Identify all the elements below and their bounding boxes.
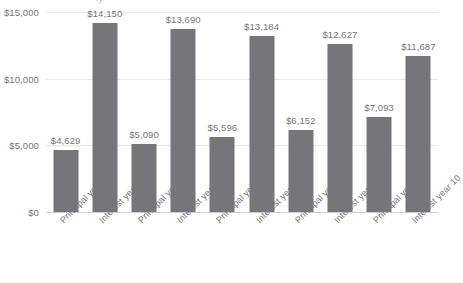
bar-value-label: $5,090: [129, 129, 159, 140]
bar-value-label: $12,627: [322, 29, 357, 40]
x-axis-labels: Principal year 1Interest year 1Principal…: [46, 214, 438, 283]
bar-group: $4,629: [46, 12, 85, 212]
bar-value-label: $11,687: [401, 41, 435, 52]
bar-value-label: $14,150: [87, 8, 122, 19]
y-axis-tick-label: $15,000: [4, 7, 39, 18]
y-axis-tick-label: $5,000: [9, 140, 39, 151]
bar-value-label: $7,093: [364, 102, 394, 113]
clipped-title-artifact: ly: [96, 0, 103, 4]
bar-value-label: $13,690: [166, 14, 201, 25]
y-axis-tick-label: $10,000: [4, 73, 39, 84]
bar-value-label: $13,184: [244, 21, 279, 32]
bar[interactable]: [367, 117, 392, 212]
y-axis-tick-label: $0: [28, 207, 39, 218]
bar-value-label: $4,629: [51, 135, 81, 146]
bar-value-label: $6,152: [286, 115, 316, 126]
bar-value-label: $5,596: [208, 122, 238, 133]
